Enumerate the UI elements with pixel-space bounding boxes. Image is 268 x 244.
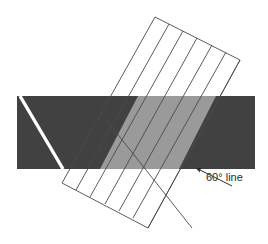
annotation-label-60-degree-line: 60° line	[206, 171, 243, 183]
figure-container: 60° line	[0, 0, 268, 244]
figure-svg: 60° line	[0, 0, 268, 244]
